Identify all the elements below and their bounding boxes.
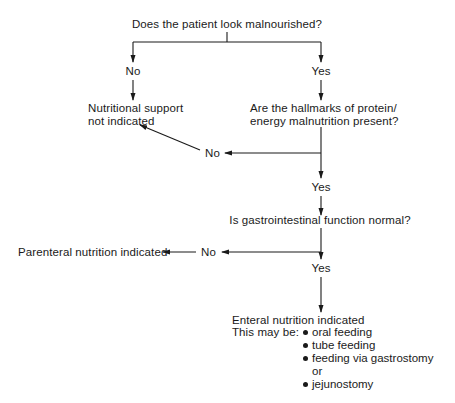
question-malnourished: Does the patient look malnourished? (132, 18, 322, 31)
option-gastrostomy: feeding via gastrostomy (302, 352, 433, 365)
option-or: or (302, 365, 433, 378)
label-no-3: No (201, 246, 216, 259)
option-tube-feeding: tube feeding (302, 339, 433, 352)
question-hallmarks-line2: energy malnutrition present? (250, 115, 399, 128)
label-no-1: No (126, 65, 141, 78)
label-yes-1: Yes (311, 65, 330, 78)
label-yes-2: Yes (311, 181, 330, 194)
outcome-parenteral: Parenteral nutrition indicated (18, 246, 167, 259)
label-no-2: No (205, 147, 220, 160)
outcome-no-support-line1: Nutritional support (88, 102, 183, 115)
option-jejunostomy: jejunostomy (302, 378, 433, 391)
label-yes-3: Yes (311, 262, 330, 275)
enteral-options-list: oral feeding tube feeding feeding via ga… (302, 326, 433, 391)
outcome-no-support-line2: not indicated (88, 115, 155, 128)
enteral-prefix: This may be: (232, 326, 299, 339)
question-gi-function: Is gastrointestinal function normal? (229, 214, 410, 227)
question-hallmarks-line1: Are the hallmarks of protein/ (250, 102, 397, 115)
option-oral-feeding: oral feeding (302, 326, 433, 339)
